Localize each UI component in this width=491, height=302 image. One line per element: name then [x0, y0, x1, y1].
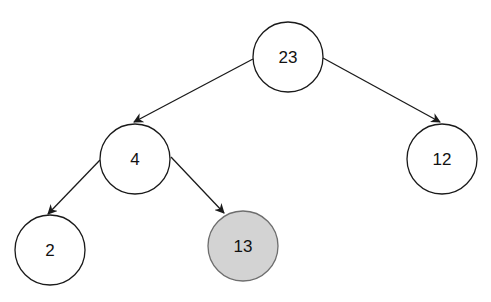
node-label: 23: [279, 48, 298, 67]
tree-node-23: 23: [253, 22, 323, 92]
edge-4-to-2: [48, 160, 100, 214]
tree-node-4: 4: [100, 124, 170, 194]
tree-node-2: 2: [15, 215, 85, 285]
tree-node-12: 12: [407, 124, 477, 194]
node-label: 2: [45, 241, 54, 260]
edge-4-to-13: [171, 157, 224, 213]
node-label: 13: [234, 237, 253, 256]
tree-node-13-highlighted: 13: [208, 211, 278, 281]
node-label: 4: [130, 150, 139, 169]
edge-23-to-12: [323, 58, 440, 122]
edge-23-to-4: [134, 59, 253, 122]
node-label: 12: [433, 150, 452, 169]
binary-tree-diagram: 23 4 12 2 13: [0, 0, 491, 302]
